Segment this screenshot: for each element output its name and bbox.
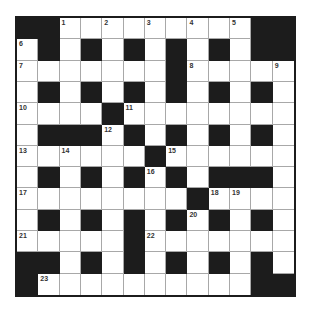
answer-cell[interactable] [230,125,251,146]
answer-cell[interactable] [166,103,187,124]
answer-cell[interactable]: 20 [187,210,208,231]
answer-cell[interactable] [102,82,123,103]
answer-cell[interactable] [145,274,166,295]
answer-cell[interactable] [273,210,294,231]
answer-cell[interactable] [102,167,123,188]
answer-cell[interactable] [102,188,123,209]
answer-cell[interactable] [145,103,166,124]
answer-cell[interactable] [209,231,230,252]
answer-cell[interactable]: 17 [17,188,38,209]
answer-cell[interactable] [81,274,102,295]
answer-cell[interactable] [102,231,123,252]
answer-cell[interactable] [145,188,166,209]
answer-cell[interactable] [124,188,145,209]
answer-cell[interactable]: 12 [102,125,123,146]
answer-cell[interactable] [17,82,38,103]
answer-cell[interactable] [60,210,81,231]
answer-cell[interactable] [60,39,81,60]
answer-cell[interactable] [145,61,166,82]
answer-cell[interactable]: 22 [145,231,166,252]
answer-cell[interactable]: 15 [166,146,187,167]
answer-cell[interactable] [60,103,81,124]
answer-cell[interactable] [102,210,123,231]
answer-cell[interactable] [38,146,59,167]
answer-cell[interactable] [124,18,145,39]
answer-cell[interactable]: 19 [230,188,251,209]
answer-cell[interactable] [166,274,187,295]
answer-cell[interactable] [124,146,145,167]
answer-cell[interactable] [38,188,59,209]
answer-cell[interactable]: 2 [102,18,123,39]
answer-cell[interactable] [60,61,81,82]
answer-cell[interactable] [273,146,294,167]
answer-cell[interactable] [273,252,294,273]
answer-cell[interactable]: 8 [187,61,208,82]
answer-cell[interactable] [251,188,272,209]
answer-cell[interactable]: 6 [17,39,38,60]
answer-cell[interactable] [60,82,81,103]
answer-cell[interactable] [187,274,208,295]
answer-cell[interactable]: 14 [60,146,81,167]
answer-cell[interactable] [209,18,230,39]
answer-cell[interactable]: 7 [17,61,38,82]
answer-cell[interactable]: 1 [60,18,81,39]
answer-cell[interactable] [60,231,81,252]
answer-cell[interactable] [81,61,102,82]
answer-cell[interactable] [102,146,123,167]
answer-cell[interactable] [38,61,59,82]
answer-cell[interactable] [81,188,102,209]
answer-cell[interactable] [209,103,230,124]
answer-cell[interactable] [273,231,294,252]
answer-cell[interactable] [230,231,251,252]
answer-cell[interactable] [273,103,294,124]
answer-cell[interactable]: 10 [17,103,38,124]
answer-cell[interactable] [17,210,38,231]
answer-cell[interactable] [251,61,272,82]
answer-cell[interactable] [230,103,251,124]
answer-cell[interactable] [38,103,59,124]
answer-cell[interactable] [209,274,230,295]
answer-cell[interactable] [145,252,166,273]
answer-cell[interactable] [187,82,208,103]
answer-cell[interactable] [187,39,208,60]
answer-cell[interactable]: 21 [17,231,38,252]
answer-cell[interactable] [166,188,187,209]
answer-cell[interactable] [145,39,166,60]
answer-cell[interactable] [81,103,102,124]
answer-cell[interactable] [230,39,251,60]
answer-cell[interactable]: 3 [145,18,166,39]
answer-cell[interactable] [251,146,272,167]
answer-cell[interactable] [273,82,294,103]
answer-cell[interactable] [60,188,81,209]
answer-cell[interactable] [166,231,187,252]
answer-cell[interactable] [251,103,272,124]
answer-cell[interactable]: 13 [17,146,38,167]
answer-cell[interactable] [145,210,166,231]
answer-cell[interactable] [102,274,123,295]
answer-cell[interactable] [230,274,251,295]
answer-cell[interactable] [60,252,81,273]
answer-cell[interactable] [230,252,251,273]
answer-cell[interactable] [230,146,251,167]
answer-cell[interactable] [187,103,208,124]
answer-cell[interactable] [230,82,251,103]
answer-cell[interactable] [145,125,166,146]
answer-cell[interactable]: 5 [230,18,251,39]
answer-cell[interactable] [124,61,145,82]
answer-cell[interactable] [145,82,166,103]
answer-cell[interactable] [187,252,208,273]
answer-cell[interactable] [102,252,123,273]
answer-cell[interactable] [81,146,102,167]
answer-cell[interactable] [230,210,251,231]
answer-cell[interactable]: 9 [273,61,294,82]
answer-cell[interactable] [209,61,230,82]
answer-cell[interactable] [209,146,230,167]
answer-cell[interactable] [187,167,208,188]
answer-cell[interactable] [124,274,145,295]
answer-cell[interactable] [187,231,208,252]
answer-cell[interactable] [81,18,102,39]
answer-cell[interactable] [102,39,123,60]
answer-cell[interactable] [273,188,294,209]
answer-cell[interactable] [60,167,81,188]
answer-cell[interactable] [38,231,59,252]
